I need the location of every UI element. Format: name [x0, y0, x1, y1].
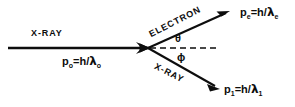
electron-momentum-lambda-subscript: e: [274, 13, 278, 20]
incident-ray-label: X-RAY: [31, 29, 63, 38]
scattered-xray-momentum-numerator: h: [241, 83, 248, 95]
scattered-xray-momentum-lambda-subscript: 1: [258, 90, 262, 97]
theta-angle-label: θ: [175, 33, 181, 44]
electron-momentum-symbol: p: [240, 6, 247, 18]
phi-angle-label: ϕ: [177, 52, 186, 63]
incident-momentum-label: po=h/λo: [62, 55, 101, 69]
electron-momentum-label: pe=h/λe: [240, 6, 278, 20]
electron-momentum-numerator: h: [257, 6, 264, 18]
scattered-xray-momentum-symbol: p: [224, 83, 231, 95]
incident-momentum-lambda: λ: [89, 54, 97, 68]
scattered-xray-momentum-label: p1=h/λ1: [224, 83, 262, 97]
incident-momentum-lambda-subscript: o: [97, 62, 101, 69]
incident-momentum-symbol: p: [62, 55, 69, 67]
compton-scattering-diagram: X-RAY po=h/λo ELECTRON pe=h/λe X-RAY p1=…: [0, 0, 295, 107]
